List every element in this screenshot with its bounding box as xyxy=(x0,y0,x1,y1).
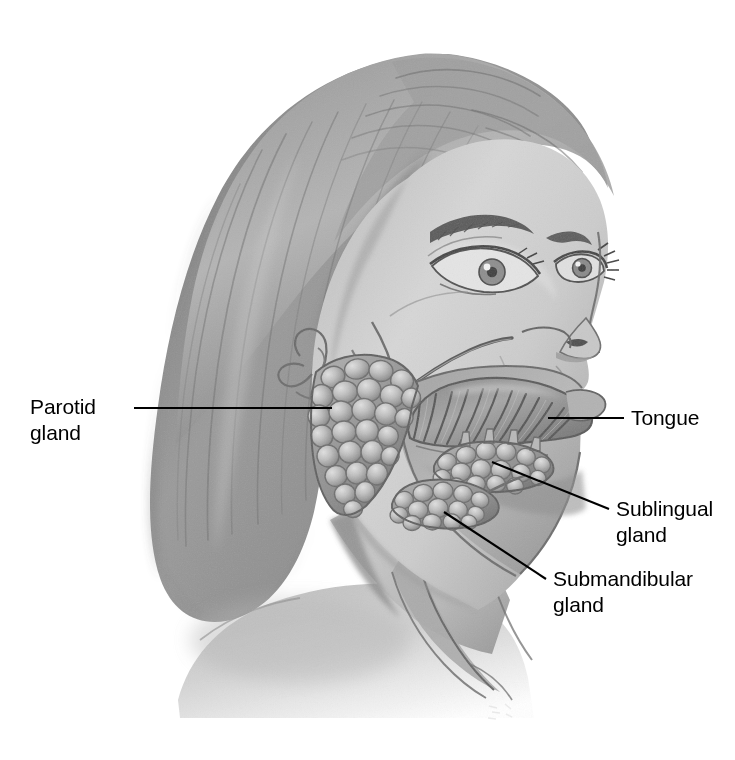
label-tongue: Tongue xyxy=(631,406,699,429)
label-line: Tongue xyxy=(631,406,699,429)
label-sublingual: Sublingualgland xyxy=(616,497,713,546)
label-line: Sublingual xyxy=(616,497,713,520)
label-line: Submandibular xyxy=(553,567,693,590)
shoulder-shadow xyxy=(190,598,410,682)
eye-far-glint xyxy=(484,264,491,271)
eye-near-glint xyxy=(575,261,580,266)
tongue-tip xyxy=(566,390,605,421)
label-parotid: Parotidgland xyxy=(30,395,96,444)
label-line: Parotid xyxy=(30,395,96,418)
anatomy-illustration: ParotidglandTongueSublingualglandSubmand… xyxy=(0,0,735,760)
label-line: gland xyxy=(30,421,81,444)
label-line: gland xyxy=(553,593,604,616)
salivary-gland-figure: ParotidglandTongueSublingualglandSubmand… xyxy=(0,0,735,760)
label-submandibular: Submandibulargland xyxy=(553,567,693,616)
label-line: gland xyxy=(616,523,667,546)
